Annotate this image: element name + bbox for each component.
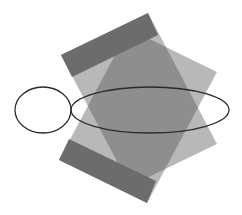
diagram-canvas (0, 0, 242, 215)
